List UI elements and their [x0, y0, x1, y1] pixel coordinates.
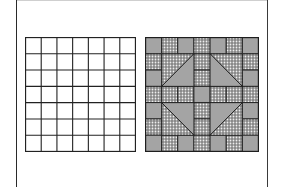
quilt-cell-solid [146, 103, 162, 119]
quilt-cell-solid [242, 38, 258, 54]
quilt-cell-solid [242, 135, 258, 151]
quilt-cell-solid [146, 38, 162, 54]
frame-top-edge [16, 0, 268, 1]
quilt-cell-dotted [194, 103, 210, 119]
quilt-cell-dotted [242, 119, 258, 135]
quilt-cell-dotted [226, 135, 242, 151]
quilt-cell-solid [178, 38, 194, 54]
quilt-cell-solid [178, 135, 194, 151]
quilt-cell-solid [242, 70, 258, 86]
quilt-block [145, 37, 259, 152]
quilt-block-pattern [145, 37, 259, 152]
quilt-cell-dotted [146, 119, 162, 135]
quilt-cell-dotted [194, 70, 210, 86]
quilt-cell-dotted [226, 38, 242, 54]
quilt-cell-solid [242, 103, 258, 119]
frame-right-edge [267, 0, 268, 187]
quilt-cell-dotted [162, 135, 178, 151]
quilt-cell-dotted [162, 86, 178, 102]
quilt-cell-dotted [226, 86, 242, 102]
quilt-cell-dotted [162, 38, 178, 54]
quilt-cell-dotted [194, 135, 210, 151]
quilt-cell-solid [146, 70, 162, 86]
quilt-cell-solid [210, 38, 226, 54]
quilt-cell-dotted [242, 86, 258, 102]
empty-grid [25, 37, 136, 152]
empty-grid-border [26, 38, 136, 152]
quilt-cell-solid [194, 86, 210, 102]
quilt-cell-solid [210, 135, 226, 151]
quilt-cell-dotted [178, 86, 194, 102]
quilt-cell-dotted [194, 38, 210, 54]
frame-left-edge [16, 0, 17, 187]
quilt-cell-dotted [210, 86, 226, 102]
empty-grid-lines [25, 37, 136, 152]
quilt-cell-dotted [242, 54, 258, 70]
quilt-cell-dotted [194, 54, 210, 70]
quilt-cell-solid [146, 135, 162, 151]
quilt-cell-dotted [146, 54, 162, 70]
quilt-cell-dotted [146, 86, 162, 102]
quilt-cell-dotted [194, 119, 210, 135]
